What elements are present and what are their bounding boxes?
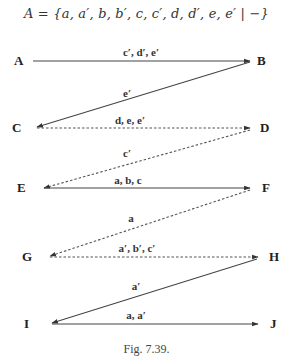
edge-label-b-c: e′ <box>123 87 131 99</box>
node-i: I <box>24 316 29 331</box>
figure-caption: Fig. 7.39. <box>0 342 293 357</box>
node-f: F <box>262 180 270 195</box>
node-e: E <box>17 180 26 195</box>
transition-diagram: c′, d′, e′ e′ d, e, e′ c′ a, b, c a a′, … <box>0 0 293 363</box>
edge-label-g-h: a′, b′, c′ <box>119 242 156 254</box>
node-g: G <box>22 249 32 264</box>
edges <box>33 61 258 324</box>
edge-labels: c′, d′, e′ e′ d, e, e′ c′ a, b, c a a′, … <box>114 46 159 321</box>
edge-label-e-f: a, b, c <box>114 174 142 186</box>
node-a: A <box>14 53 24 68</box>
edge-h-to-i <box>52 259 257 323</box>
edge-label-c-d: d, e, e′ <box>115 114 145 126</box>
node-b: B <box>257 53 266 68</box>
edge-label-d-e: c′ <box>123 147 131 159</box>
node-j: J <box>270 316 277 331</box>
node-d: D <box>260 120 269 135</box>
node-h: H <box>269 249 279 264</box>
edge-label-a-b: c′, d′, e′ <box>123 46 159 58</box>
edge-label-h-i: a′ <box>132 280 141 292</box>
edge-label-i-j: a, a′ <box>126 309 146 321</box>
node-c: C <box>12 120 21 135</box>
edge-d-to-e <box>44 130 250 188</box>
edge-label-f-g: a <box>128 212 134 224</box>
nodes: A B C D E F G H I J <box>12 53 279 331</box>
